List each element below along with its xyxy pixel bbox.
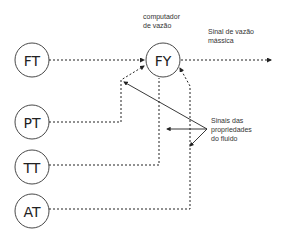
node-at: AT [15,194,49,228]
fy-caption-line1: computador [143,13,181,21]
edge-at-fy [49,68,190,209]
node-tt: TT [15,150,49,184]
node-ft-label: FT [24,53,41,69]
fy-caption-line2: de vazão [143,22,172,29]
props-label-line1: Sinais das [211,117,244,124]
output-label-line1: Sinal de vazão [208,28,254,35]
node-tt-label: TT [23,160,41,176]
props-label-line3: do fluido [211,135,238,142]
node-fy-label: FY [155,53,172,69]
node-at-label: AT [23,204,40,220]
output-label-line2: mássica [208,37,234,44]
node-pt-label: PT [24,115,41,131]
node-pt: PT [15,105,49,139]
diagram-canvas: FT FY PT TT AT computador de vazão Sinal [0,0,281,239]
props-label-line2: propriedades [211,126,252,134]
node-ft: FT [15,43,49,77]
node-fy: FY [146,43,180,77]
arrow-props-to-at [190,129,207,146]
arrow-props-to-pt [124,82,207,129]
edge-pt-fy [49,66,144,122]
